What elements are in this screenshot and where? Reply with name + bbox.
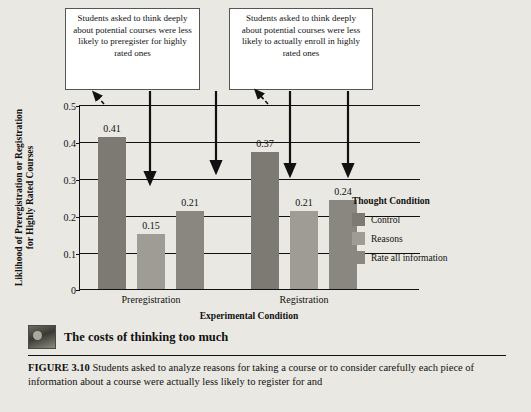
gridline-0.5: 0.5 xyxy=(80,105,420,106)
chart-legend: Thought Condition Control Reasons Rate a… xyxy=(352,196,448,270)
figure-caption: FIGURE 3.10 Students asked to analyze re… xyxy=(28,361,506,389)
x-tick-label-registration: Registration xyxy=(280,294,329,305)
ytick-mark-0 xyxy=(76,290,80,291)
ytick-label-0.2: 0.2 xyxy=(64,212,77,223)
costs-of-thinking-row: The costs of thinking too much xyxy=(28,325,228,349)
y-axis-title: Liklihood of Preregistration or Registra… xyxy=(14,105,30,290)
horizontal-divider xyxy=(28,355,506,356)
ytick-label-0.3: 0.3 xyxy=(64,175,77,186)
legend-item-reasons: Reasons xyxy=(352,232,448,245)
legend-item-control: Control xyxy=(352,213,448,226)
caption-text: Students asked to analyze reasons for ta… xyxy=(28,362,474,387)
ytick-label-0.4: 0.4 xyxy=(64,138,77,149)
legend-swatch-reasons xyxy=(352,232,365,245)
figure-page: Liklihood of Preregistration or Registra… xyxy=(0,0,531,412)
bar-preregistration-rate-all: 0.21 xyxy=(176,211,204,289)
x-tick-label-preregistration: Preregistration xyxy=(122,294,181,305)
bar-registration-control: 0.37 xyxy=(251,152,279,289)
legend-label-rate-all-information: Rate all information xyxy=(371,253,448,263)
bar-value-registration-control: 0.37 xyxy=(256,138,274,149)
legend-item-rate-all-information: Rate all information xyxy=(352,251,448,264)
bar-registration-reasons: 0.21 xyxy=(290,211,318,289)
gridline-0.3: 0.3 xyxy=(80,179,420,180)
legend-label-control: Control xyxy=(371,215,400,225)
ytick-mark-0.1 xyxy=(76,254,80,255)
ytick-mark-0.4 xyxy=(76,143,80,144)
thumbnail-icon xyxy=(28,325,56,349)
x-axis-title: Experimental Condition xyxy=(79,311,419,321)
bar-preregistration-reasons: 0.15 xyxy=(137,234,165,290)
legend-swatch-control xyxy=(352,213,365,226)
bar-value-preregistration-rate-all: 0.21 xyxy=(181,197,199,208)
bar-value-preregistration-reasons: 0.15 xyxy=(142,220,160,231)
chart-figure: Liklihood of Preregistration or Registra… xyxy=(0,0,531,320)
ytick-mark-0.5 xyxy=(76,106,80,107)
bar-value-preregistration-control: 0.41 xyxy=(103,123,121,134)
bar-preregistration-control: 0.41 xyxy=(98,137,126,289)
ytick-label-0: 0 xyxy=(71,285,76,296)
legend-label-reasons: Reasons xyxy=(371,234,403,244)
callout-left: Students asked to think deeply about pot… xyxy=(65,8,200,90)
callout-right: Students asked to think deeply about pot… xyxy=(229,8,373,90)
ytick-label-0.1: 0.1 xyxy=(64,249,77,260)
gridline-0.4: 0.4 xyxy=(80,142,420,143)
bar-value-registration-reasons: 0.21 xyxy=(295,197,313,208)
costs-title: The costs of thinking too much xyxy=(64,330,228,345)
ytick-mark-0.2 xyxy=(76,217,80,218)
legend-swatch-rate-all-information xyxy=(352,251,365,264)
ytick-mark-0.3 xyxy=(76,180,80,181)
figure-number: FIGURE 3.10 xyxy=(28,362,90,373)
bar-value-registration-rate-all: 0.24 xyxy=(334,186,352,197)
ytick-label-0.5: 0.5 xyxy=(64,101,77,112)
legend-title: Thought Condition xyxy=(352,196,448,206)
